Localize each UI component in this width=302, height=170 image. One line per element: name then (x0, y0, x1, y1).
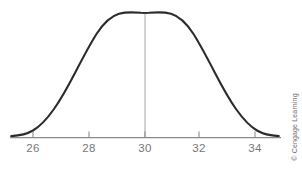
x-tick-label-34: 34 (242, 142, 268, 155)
copyright-credit-text: © Cengage Learning (291, 93, 298, 160)
screenshot-root: 26 28 30 32 34 © Cengage Learning (0, 0, 302, 170)
copyright-credit: © Cengage Learning (287, 88, 301, 166)
bell-curve-figure: 26 28 30 32 34 (0, 0, 302, 170)
x-tick-label-30: 30 (132, 142, 158, 155)
x-tick-label-26: 26 (20, 142, 46, 155)
x-tick-label-32: 32 (186, 142, 212, 155)
x-tick-label-28: 28 (76, 142, 102, 155)
